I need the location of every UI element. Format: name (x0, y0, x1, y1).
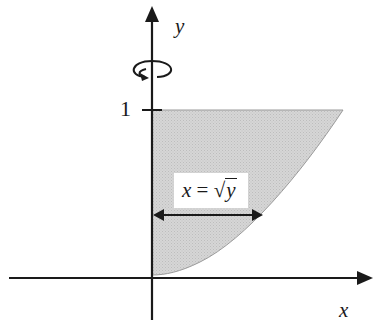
x-axis-arrowhead-icon (357, 271, 373, 285)
sqrt-symbol: √ (214, 178, 226, 202)
equation-equals: = (197, 178, 214, 202)
curve-equation-label: x = √y (182, 178, 237, 203)
y-tick-label-1: 1 (120, 96, 131, 122)
sqrt-expression: √y (214, 178, 237, 203)
y-axis-label: y (175, 14, 184, 39)
diagram-canvas (0, 0, 373, 326)
y-axis-arrowhead-icon (145, 6, 159, 22)
sqrt-radicand: y (225, 178, 236, 201)
x-axis-label: x (339, 298, 348, 323)
equation-x: x (182, 178, 191, 202)
